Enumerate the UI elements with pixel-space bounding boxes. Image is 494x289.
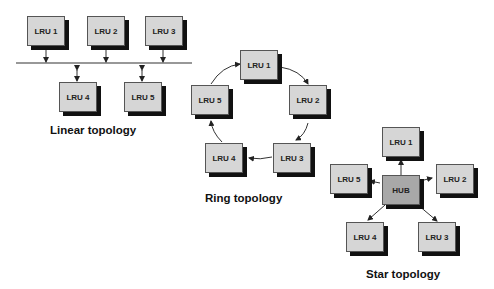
linear-node-lru3: LRU 3: [145, 16, 183, 46]
linear-node-lru2: LRU 2: [87, 16, 125, 46]
ring-node-lru2: LRU 2: [289, 85, 327, 115]
linear-node-lru4: LRU 4: [59, 82, 97, 112]
star-node-lru2: LRU 2: [436, 164, 474, 194]
ring-node-lru3: LRU 3: [273, 143, 311, 173]
star-node-lru4: LRU 4: [346, 222, 384, 252]
star-node-lru5: LRU 5: [330, 164, 368, 194]
linear-topology-caption: Linear topology: [50, 124, 136, 136]
ring-node-lru5: LRU 5: [191, 85, 229, 115]
star-topology-caption: Star topology: [366, 268, 440, 280]
linear-node-lru5: LRU 5: [124, 82, 162, 112]
star-node-lru1: LRU 1: [382, 127, 420, 157]
ring-node-lru4: LRU 4: [205, 143, 243, 173]
star-hub: HUB: [382, 175, 420, 205]
ring-topology-caption: Ring topology: [205, 192, 282, 204]
star-node-lru3: LRU 3: [418, 222, 456, 252]
ring-node-lru1: LRU 1: [240, 50, 278, 80]
linear-node-lru1: LRU 1: [27, 16, 65, 46]
